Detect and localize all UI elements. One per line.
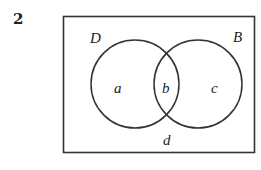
venn-diagram: D B a b c d xyxy=(0,0,261,170)
region-c-label: c xyxy=(211,80,218,96)
region-b-label: b xyxy=(162,80,170,96)
set-b-label: B xyxy=(233,29,242,45)
region-a-label: a xyxy=(114,80,122,96)
set-d-label: D xyxy=(89,30,101,46)
region-d-label: d xyxy=(163,132,171,148)
